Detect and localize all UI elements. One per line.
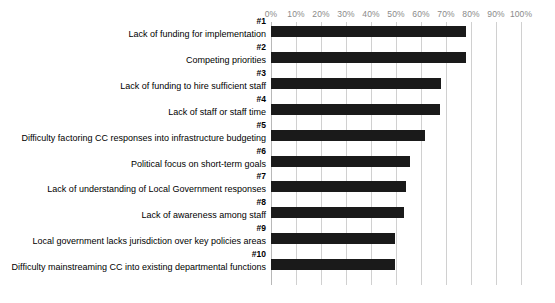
category-name: Political focus on short-term goals [0,158,266,170]
category-name: Local government lacks jurisdiction over… [0,235,266,247]
bar [271,207,404,218]
category-label-group: #4Lack of staff or staff time [0,94,266,118]
category-label-group: #9Local government lacks jurisdiction ov… [0,223,266,247]
category-name: Lack of understanding of Local Governmen… [0,183,266,195]
x-tick-label: 10% [287,8,304,21]
bar [271,259,395,270]
x-tick-label: 0% [265,8,278,21]
bar [271,233,395,244]
x-tick-label: 80% [462,8,479,21]
x-tick-label: 30% [337,8,354,21]
category-rank: #10 [0,249,266,260]
x-tick-label: 60% [412,8,429,21]
category-rank: #6 [0,146,266,157]
bar-chart: 0%10%20%30%40%50%60%70%80%90%100% #1Lack… [0,0,555,303]
category-name: Lack of staff or staff time [0,106,266,118]
category-label-group: #10Difficulty mainstreaming CC into exis… [0,249,266,273]
bar [271,52,466,63]
bar [271,26,466,37]
category-name: Competing priorities [0,54,266,66]
category-label-group: #3Lack of funding to hire sufficient sta… [0,68,266,92]
bar [271,181,406,192]
category-label-group: #6Political focus on short-term goals [0,146,266,170]
category-name: Lack of funding for implementation [0,28,266,40]
category-rank: #2 [0,42,266,53]
bar [271,104,440,115]
category-rank: #3 [0,68,266,79]
category-rank: #5 [0,120,266,131]
category-name: Lack of funding to hire sufficient staff [0,80,266,92]
x-tick-label: 100% [510,8,532,21]
bar [271,130,425,141]
x-tick-label: 40% [362,8,379,21]
category-name: Difficulty factoring CC responses into i… [0,132,266,144]
category-rank: #9 [0,223,266,234]
bar-series [271,22,555,285]
category-rank: #7 [0,171,266,182]
category-label-group: #1Lack of funding for implementation [0,16,266,40]
x-tick-label: 90% [487,8,504,21]
bar [271,78,441,89]
x-tick-label: 20% [312,8,329,21]
y-axis-category-labels: #1Lack of funding for implementation#2Co… [0,22,266,285]
bar [271,156,410,167]
category-rank: #1 [0,16,266,27]
x-tick-label: 50% [387,8,404,21]
category-name: Lack of awareness among staff [0,209,266,221]
category-name: Difficulty mainstreaming CC into existin… [0,261,266,273]
x-tick-label: 70% [437,8,454,21]
category-label-group: #5Difficulty factoring CC responses into… [0,120,266,144]
category-label-group: #2Competing priorities [0,42,266,66]
category-rank: #8 [0,197,266,208]
category-rank: #4 [0,94,266,105]
category-label-group: #7Lack of understanding of Local Governm… [0,171,266,195]
category-label-group: #8Lack of awareness among staff [0,197,266,221]
